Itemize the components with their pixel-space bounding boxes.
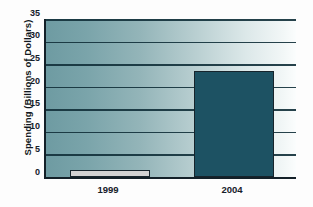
bar-chart-figure: Spending (Billions of Dollars) 0 5 10 15… [0, 0, 313, 207]
gridline-35 [46, 19, 296, 21]
y-tick-label-10: 10 [18, 122, 40, 131]
y-tick-label-25: 25 [18, 54, 40, 63]
gridline-25 [46, 64, 296, 66]
y-tick-label-0: 0 [18, 168, 40, 177]
x-tick-label-2004: 2004 [187, 184, 277, 195]
bar-2004 [194, 71, 274, 177]
y-tick-label-35: 35 [18, 9, 40, 18]
plot-area [44, 19, 296, 179]
x-tick-label-1999: 1999 [63, 184, 153, 195]
y-tick-label-15: 15 [18, 99, 40, 108]
y-tick-label-20: 20 [18, 77, 40, 86]
bar-1999 [70, 170, 150, 177]
y-tick-label-5: 5 [18, 145, 40, 154]
y-axis-tick-labels: 0 5 10 15 20 25 30 35 [18, 12, 40, 182]
gridline-30 [46, 42, 296, 44]
y-tick-label-30: 30 [18, 31, 40, 40]
x-axis-tick-labels: 1999 2004 [44, 184, 296, 202]
